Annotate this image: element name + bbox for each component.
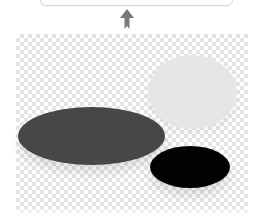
diagram-stage [0,0,254,224]
canvas-bottom-fade [16,206,248,216]
source-panel [40,0,233,6]
black-ellipse [150,146,230,188]
dark-gray-ellipse [18,107,165,165]
transparent-canvas [16,34,248,216]
light-gray-ellipse [148,55,237,129]
arrow-up-icon [119,9,135,29]
